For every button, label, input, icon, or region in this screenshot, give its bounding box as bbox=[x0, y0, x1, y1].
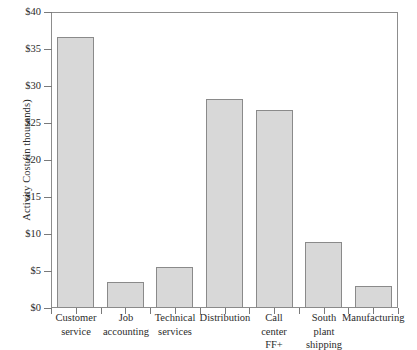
y-axis-tick-label: $35 bbox=[1, 44, 41, 54]
y-axis-tick-label: $0 bbox=[1, 303, 41, 313]
y-axis-tick-label: $30 bbox=[1, 81, 41, 91]
y-axis-tick-label: $15 bbox=[1, 192, 41, 202]
y-axis-tick bbox=[44, 123, 52, 124]
bar bbox=[206, 99, 243, 308]
bar bbox=[256, 110, 293, 308]
x-axis-tick-label: Manufacturing bbox=[342, 311, 404, 325]
y-axis-tick bbox=[44, 12, 52, 13]
bar bbox=[57, 37, 94, 308]
y-axis-tick bbox=[44, 271, 52, 272]
bar bbox=[107, 282, 144, 308]
y-axis-tick-label: $40 bbox=[1, 7, 41, 17]
y-axis-tick-label: $5 bbox=[1, 266, 41, 276]
y-axis-tick bbox=[44, 86, 52, 87]
bar bbox=[355, 286, 392, 308]
y-axis-tick bbox=[44, 234, 52, 235]
y-axis-tick bbox=[44, 49, 52, 50]
y-axis-tick bbox=[44, 160, 52, 161]
bar-chart: Activity Cost (in thousands) $0$5$10$15$… bbox=[0, 0, 417, 350]
y-axis-tick-label: $20 bbox=[1, 155, 41, 165]
bar bbox=[305, 242, 342, 308]
y-axis-tick-label: $10 bbox=[1, 229, 41, 239]
y-axis-tick bbox=[44, 197, 52, 198]
y-axis-tick-label: $25 bbox=[1, 118, 41, 128]
bar bbox=[156, 267, 193, 308]
